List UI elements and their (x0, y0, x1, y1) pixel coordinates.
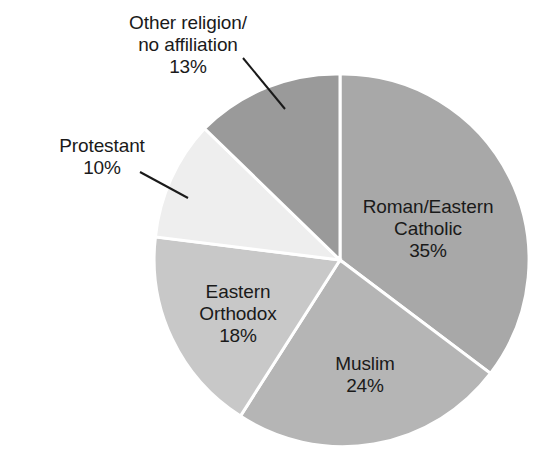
pie-label-other-religion-no-affiliation: Other religion/ no affiliation 13% (88, 12, 288, 79)
pie-chart-figure: Roman/Eastern Catholic 35% Muslim 24% Ea… (0, 0, 547, 471)
pie-label-roman-eastern-catholic: Roman/Eastern Catholic 35% (338, 196, 518, 263)
pie-label-eastern-orthodox: Eastern Orthodox 18% (158, 281, 318, 348)
pie-label-protestant: Protestant 10% (12, 135, 192, 179)
pie-label-muslim: Muslim 24% (290, 353, 440, 397)
